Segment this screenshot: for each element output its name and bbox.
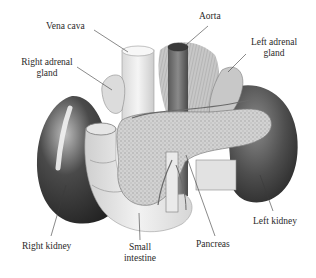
label-left-adrenal-line2: gland xyxy=(246,48,302,59)
label-left-adrenal-line1: Left adrenal xyxy=(246,37,302,48)
anatomy-diagram: Vena cava Right adrenal gland Aorta Left… xyxy=(0,0,316,278)
label-left-kidney: Left kidney xyxy=(253,216,297,227)
label-right-adrenal-line1: Right adrenal xyxy=(16,57,78,68)
leader-aorta xyxy=(186,26,208,45)
label-small-intestine: Small intestine xyxy=(120,242,160,264)
label-small-intestine-line2: intestine xyxy=(120,253,160,264)
label-right-kidney: Right kidney xyxy=(22,241,71,252)
label-right-adrenal-line2: gland xyxy=(16,68,78,79)
mesenteric-vessels xyxy=(158,152,236,212)
label-left-adrenal-gland: Left adrenal gland xyxy=(246,37,302,59)
label-pancreas: Pancreas xyxy=(196,239,230,250)
right-adrenal-gland xyxy=(102,75,125,113)
leader-vena-cava xyxy=(94,30,128,52)
label-vena-cava: Vena cava xyxy=(46,21,85,32)
label-small-intestine-line1: Small xyxy=(120,242,160,253)
label-right-adrenal-gland: Right adrenal gland xyxy=(16,57,78,79)
label-aorta: Aorta xyxy=(199,11,221,22)
